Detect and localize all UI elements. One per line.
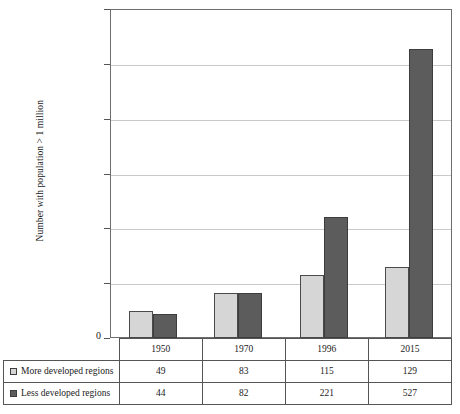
cell-less-1996: 221 <box>285 383 368 405</box>
bar-more-1970 <box>214 293 238 339</box>
bars-layer <box>110 9 452 338</box>
legend-label-more-developed: More developed regions <box>21 366 113 376</box>
cell-less-2015: 527 <box>368 383 451 405</box>
data-table: 1950 1970 1996 2015 More developed regio… <box>3 338 452 405</box>
bar-less-1970 <box>238 293 262 338</box>
cell-more-2015: 129 <box>368 361 451 383</box>
bar-less-1996 <box>324 217 348 338</box>
cell-more-1996: 115 <box>285 361 368 383</box>
cell-less-1950: 44 <box>119 383 202 405</box>
bar-more-1996 <box>300 275 324 338</box>
table-row-header: 1950 1970 1996 2015 <box>4 339 452 361</box>
bar-more-2015 <box>385 267 409 338</box>
table-row: More developed regions 49 83 115 129 <box>4 361 452 383</box>
legend-less-developed-regions: Less developed regions <box>4 383 120 405</box>
bar-chart-figure: Number with population > 1 million 600 5… <box>0 0 460 414</box>
dark-square-icon <box>10 390 17 397</box>
header-year-1950: 1950 <box>119 339 202 361</box>
bar-less-2015 <box>409 49 433 338</box>
header-corner-cell <box>4 339 120 361</box>
y-axis-title: Number with population > 1 million <box>36 61 46 281</box>
cell-more-1950: 49 <box>119 361 202 383</box>
bar-more-1950 <box>129 311 153 338</box>
light-square-icon <box>10 368 17 375</box>
header-year-1996: 1996 <box>285 339 368 361</box>
header-year-1970: 1970 <box>202 339 285 361</box>
bar-less-1950 <box>153 314 177 338</box>
table-row: Less developed regions 44 82 221 527 <box>4 383 452 405</box>
legend-label-less-developed: Less developed regions <box>21 388 110 398</box>
cell-less-1970: 82 <box>202 383 285 405</box>
legend-more-developed-regions: More developed regions <box>4 361 120 383</box>
header-year-2015: 2015 <box>368 339 451 361</box>
cell-more-1970: 83 <box>202 361 285 383</box>
